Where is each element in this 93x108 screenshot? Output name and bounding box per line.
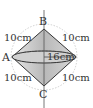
point-c-label: C: [39, 89, 47, 100]
edge-label-bottom-left: 10cm: [4, 73, 32, 83]
edge-label-bottom-right: 10cm: [62, 73, 90, 83]
edge-label-top-right: 10cm: [62, 33, 90, 43]
edge-label-top-left: 10cm: [4, 33, 32, 43]
point-a-label: A: [2, 52, 10, 63]
edge-label-diameter: 16cm: [47, 52, 75, 62]
point-b-label: B: [39, 16, 47, 27]
